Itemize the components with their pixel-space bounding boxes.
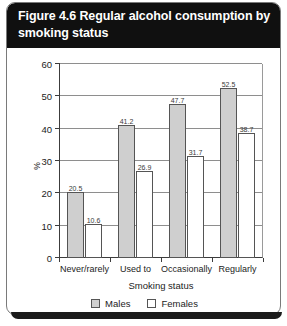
x-axis-tick (59, 258, 60, 262)
figure-card: Figure 4.6 Regular alcohol consumption b… (6, 2, 281, 315)
bar-value-label: 47.7 (171, 97, 185, 104)
x-axis-label: Occasionally (161, 264, 212, 274)
page-title: Figure 4.6 Regular alcohol consumption b… (18, 8, 272, 42)
x-axis-label: Regularly (218, 264, 256, 274)
x-axis-tick (161, 258, 162, 262)
bar-value-label: 26.9 (138, 164, 152, 171)
chart-area: % 0102030405060 20.510.6Never/rarely41.2… (7, 48, 281, 315)
y-axis-label: 10 (41, 220, 52, 231)
bar-males: 52.5 (220, 88, 237, 258)
legend-item-males[interactable]: Males (91, 298, 130, 309)
x-axis-tick (263, 258, 264, 262)
legend-item-label: Males (105, 298, 130, 309)
gray-swatch-icon (91, 299, 100, 308)
y-axis-label: 20 (41, 188, 52, 199)
bar-value-label: 41.2 (120, 118, 134, 125)
figure-header: Figure 4.6 Regular alcohol consumption b… (7, 3, 281, 48)
x-axis-label: Never/rarely (60, 264, 109, 274)
bar-value-label: 20.5 (69, 185, 83, 192)
card-shadow (11, 312, 282, 319)
bar-males: 47.7 (169, 104, 186, 258)
y-axis-label: 40 (41, 123, 52, 134)
bar-females: 26.9 (136, 171, 153, 258)
x-axis-tick (212, 258, 213, 262)
bar-females: 31.7 (187, 156, 204, 258)
chart-legend: MalesFemales (7, 298, 281, 309)
x-axis-tick (110, 258, 111, 262)
white-swatch-icon (147, 299, 156, 308)
bar-value-label: 52.5 (222, 81, 236, 88)
bar-females: 10.6 (85, 224, 102, 258)
bar-group: 52.538.7Regularly (212, 64, 263, 258)
legend-item-females[interactable]: Females (147, 298, 197, 309)
y-axis-label: 0 (47, 253, 52, 264)
bar-males: 41.2 (118, 125, 135, 258)
bar-females: 38.7 (238, 133, 255, 258)
bar-value-label: 10.6 (87, 217, 101, 224)
x-axis-label: Used to (120, 264, 151, 274)
bar-value-label: 31.7 (189, 149, 203, 156)
x-axis-title: Smoking status (59, 280, 263, 291)
bar-group: 41.226.9Used to (110, 64, 161, 258)
bar-males: 20.5 (67, 192, 84, 258)
bar-value-label: 38.7 (240, 126, 254, 133)
y-axis-label: 60 (41, 59, 52, 70)
bars-layer: 20.510.6Never/rarely41.226.9Used to47.73… (59, 64, 263, 258)
y-axis-label: 50 (41, 91, 52, 102)
legend-item-label: Females (161, 298, 197, 309)
y-axis-label: 30 (41, 156, 52, 167)
bar-group: 20.510.6Never/rarely (59, 64, 110, 258)
bar-group: 47.731.7Occasionally (161, 64, 212, 258)
y-axis-title: % (32, 162, 42, 170)
